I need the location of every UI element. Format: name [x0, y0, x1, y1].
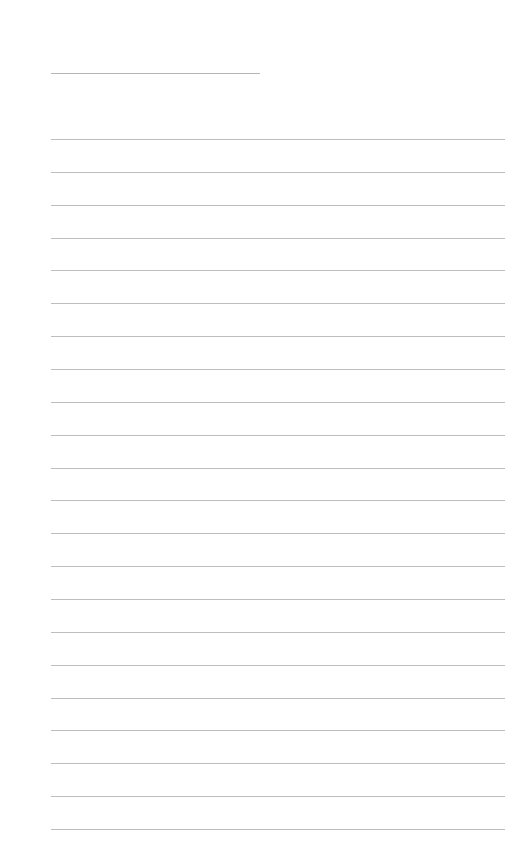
ruled-line [51, 468, 505, 469]
ruled-line [51, 500, 505, 501]
ruled-line [51, 270, 505, 271]
ruled-line [51, 402, 505, 403]
ruled-line [51, 533, 505, 534]
ruled-line [51, 599, 505, 600]
ruled-line [51, 698, 505, 699]
ruled-line [51, 796, 505, 797]
ruled-line [51, 139, 505, 140]
lined-paper-page [0, 0, 528, 863]
title-underline [51, 73, 260, 74]
ruled-line [51, 238, 505, 239]
ruled-line [51, 369, 505, 370]
ruled-line [51, 632, 505, 633]
ruled-line [51, 205, 505, 206]
ruled-line [51, 730, 505, 731]
ruled-line [51, 435, 505, 436]
ruled-line [51, 336, 505, 337]
ruled-line [51, 763, 505, 764]
ruled-line [51, 303, 505, 304]
ruled-line [51, 829, 505, 830]
ruled-line [51, 665, 505, 666]
ruled-line [51, 566, 505, 567]
ruled-line [51, 172, 505, 173]
